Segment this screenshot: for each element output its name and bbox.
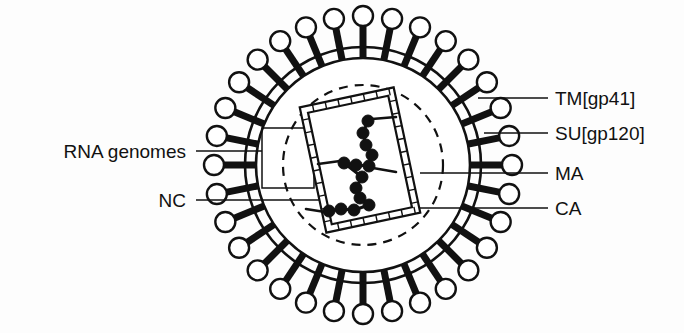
tm-gp41-stalk xyxy=(264,239,289,264)
su-gp120-head xyxy=(324,301,344,321)
su-gp120-head xyxy=(477,72,497,92)
tm-gp41-stalk xyxy=(336,268,343,302)
su-gp120-head xyxy=(353,6,373,26)
tm-gp41-stalk xyxy=(226,185,260,192)
su-gp120-head xyxy=(215,212,235,232)
tm-gp41-stalk xyxy=(437,239,462,264)
tm-gp41-stalk xyxy=(309,36,322,68)
su-gp120-head xyxy=(499,184,519,204)
su-gp120-head xyxy=(477,238,497,258)
su-gp120-head xyxy=(229,238,249,258)
su-gp120-head xyxy=(458,50,478,70)
nc-protein-bead xyxy=(323,205,335,217)
su-gp120-head xyxy=(296,17,316,37)
nc-protein-bead xyxy=(350,159,362,171)
su-gp120-head xyxy=(502,155,522,175)
tm-gp41-stalk xyxy=(466,138,500,145)
virion-diagram: TM[gp41]SU[gp120]MACARNA genomesNC xyxy=(0,0,684,333)
nc-protein-bead xyxy=(366,149,378,161)
su-gp120-head xyxy=(270,31,290,51)
tm-gp41-stalk xyxy=(309,262,322,294)
su-gp120-head xyxy=(296,293,316,313)
label-rna: RNA genomes xyxy=(63,141,186,162)
tm-gp41-stalk xyxy=(437,66,462,91)
tm-gp41-stalk xyxy=(403,262,416,294)
su-gp120-head xyxy=(436,279,456,299)
nc-protein-bead xyxy=(357,127,369,139)
tm-gp41-stalk xyxy=(336,28,343,62)
su-gp120-head xyxy=(324,9,344,29)
su-gp120-head xyxy=(499,126,519,146)
su-gp120-head xyxy=(410,17,430,37)
label-tm: TM[gp41] xyxy=(555,88,635,109)
su-gp120-head xyxy=(410,293,430,313)
su-gp120-head xyxy=(382,301,402,321)
tm-gp41-stalk xyxy=(383,28,390,62)
label-ca: CA xyxy=(555,198,582,219)
nc-protein-bead xyxy=(335,203,347,215)
su-gp120-head xyxy=(229,72,249,92)
su-gp120-head xyxy=(207,126,227,146)
tm-gp41-stalk xyxy=(403,36,416,68)
tm-gp41-stalk xyxy=(460,111,492,124)
su-gp120-head xyxy=(248,260,268,280)
tm-gp41-stalk xyxy=(226,138,260,145)
su-gp120-head xyxy=(207,184,227,204)
tm-gp41-stalk xyxy=(466,185,500,192)
su-gp120-head xyxy=(382,9,402,29)
su-gp120-head xyxy=(353,304,373,324)
label-su: SU[gp120] xyxy=(555,123,645,144)
nc-protein-bead xyxy=(356,171,368,183)
label-ma: MA xyxy=(555,163,584,184)
nc-protein-bead xyxy=(348,204,360,216)
nc-protein-bead xyxy=(338,157,350,169)
nc-protein-bead xyxy=(363,199,375,211)
nc-protein-bead xyxy=(362,115,374,127)
su-gp120-head xyxy=(215,98,235,118)
su-gp120-head xyxy=(204,155,224,175)
tm-gp41-stalk xyxy=(264,66,289,91)
tm-gp41-stalk xyxy=(234,205,266,218)
label-nc: NC xyxy=(159,190,186,211)
su-gp120-head xyxy=(458,260,478,280)
su-gp120-head xyxy=(248,50,268,70)
su-gp120-head xyxy=(270,279,290,299)
nc-protein-bead xyxy=(363,160,375,172)
su-gp120-head xyxy=(491,212,511,232)
figure-canvas: TM[gp41]SU[gp120]MACARNA genomesNC xyxy=(0,0,684,333)
tm-gp41-stalk xyxy=(460,205,492,218)
su-gp120-head xyxy=(491,98,511,118)
tm-gp41-stalk xyxy=(234,111,266,124)
su-gp120-head xyxy=(436,31,456,51)
tm-gp41-stalk xyxy=(383,268,390,302)
